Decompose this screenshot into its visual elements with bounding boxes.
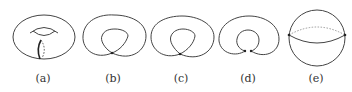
equator-back — [289, 27, 345, 35]
panel-label-b: (b) — [105, 72, 121, 85]
panel-label-c: (c) — [174, 72, 189, 85]
inner-loop — [170, 29, 195, 54]
panel-a-torus — [13, 15, 75, 59]
panel-label-d: (d) — [240, 72, 256, 85]
outer-curve — [151, 16, 214, 57]
outer-curve — [83, 15, 146, 56]
meridian-front — [38, 40, 41, 59]
torus-hole-lower — [33, 31, 55, 36]
equator-point-right — [344, 34, 347, 37]
meridian-back — [41, 40, 44, 58]
panel-e-sphere — [288, 10, 347, 66]
sphere-outline — [289, 10, 345, 66]
outer-curve — [219, 16, 279, 55]
equator-point-left — [288, 34, 291, 37]
crossing-point — [179, 53, 181, 55]
equator-front — [289, 35, 345, 43]
panel-label-e: (e) — [308, 72, 323, 85]
inner-loop — [101, 29, 128, 53]
endpoint-right — [250, 50, 252, 52]
panel-d — [219, 16, 279, 55]
panel-c — [151, 16, 214, 57]
figure-canvas: (a) (b) (c) (d) (e) — [0, 0, 352, 92]
inner-curve — [237, 30, 259, 51]
endpoint-left — [244, 50, 246, 52]
panel-label-a: (a) — [35, 72, 50, 85]
crossing-point — [111, 52, 113, 54]
panel-b — [83, 15, 146, 56]
